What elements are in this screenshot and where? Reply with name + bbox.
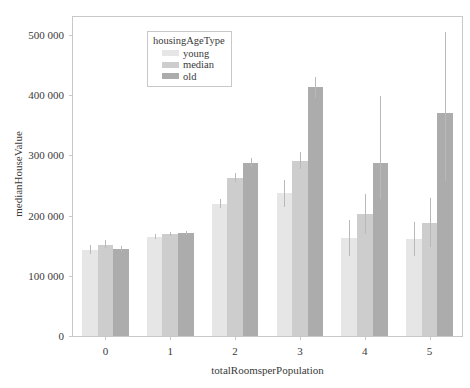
bar [178, 233, 194, 336]
x-tick-mark [365, 336, 366, 340]
error-bar [315, 77, 316, 99]
y-tick-mark [69, 276, 73, 277]
y-tick-mark [69, 35, 73, 36]
plot-inner: 0100 000200 000300 000400 000500 000 012… [73, 17, 462, 336]
error-bar [251, 158, 252, 168]
x-axis-label: totalRoomsperPopulation [70, 364, 465, 376]
y-tick-mark [69, 155, 73, 156]
legend-swatch-icon [162, 50, 179, 56]
x-tick-mark [300, 336, 301, 340]
legend-item[interactable]: median [153, 59, 225, 71]
bar [82, 250, 98, 336]
y-tick-label: 400 000 [3, 89, 73, 101]
x-tick-label: 1 [168, 345, 174, 357]
y-tick-label: 100 000 [3, 270, 73, 282]
y-tick-label: 200 000 [3, 210, 73, 222]
error-bar [445, 32, 446, 181]
x-tick-mark [430, 336, 431, 340]
x-tick-label: 0 [103, 345, 109, 357]
bar [147, 237, 163, 336]
y-tick-label: 0 [3, 330, 73, 342]
bar [292, 161, 308, 336]
x-tick-label: 4 [362, 345, 368, 357]
bar [98, 245, 114, 336]
x-tick-mark [235, 336, 236, 340]
error-bar [121, 246, 122, 253]
legend-entries: youngmedianold [153, 48, 225, 83]
bar [227, 178, 243, 336]
bar [113, 249, 129, 336]
error-bar [220, 199, 221, 208]
plot-area: 0100 000200 000300 000400 000500 000 012… [72, 16, 463, 337]
error-bar [300, 152, 301, 169]
legend-item-label: median [183, 59, 214, 71]
legend-item-label: old [183, 71, 196, 83]
bar [162, 234, 178, 336]
x-tick-label: 3 [297, 345, 303, 357]
bar [212, 204, 228, 336]
legend: housingAgeType youngmedianold [147, 31, 232, 87]
error-bar [284, 180, 285, 206]
error-bar [430, 198, 431, 247]
error-bar [170, 232, 171, 236]
legend-title: housingAgeType [153, 35, 225, 47]
legend-swatch-icon [162, 73, 179, 79]
y-axis-label: medianHouseValue [12, 104, 24, 244]
legend-swatch-icon [162, 62, 179, 68]
x-tick-mark [170, 336, 171, 340]
x-tick-mark [105, 336, 106, 340]
error-bar [235, 173, 236, 182]
y-tick-label: 300 000 [3, 149, 73, 161]
bar [243, 163, 259, 336]
error-bar [105, 240, 106, 248]
y-tick-mark [69, 216, 73, 217]
error-bar [380, 96, 381, 198]
error-bar [414, 222, 415, 256]
y-tick-mark [69, 336, 73, 337]
legend-item-label: young [183, 48, 209, 60]
error-bar [349, 220, 350, 256]
error-bar [90, 245, 91, 255]
error-bar [155, 234, 156, 239]
error-bar [365, 194, 366, 234]
bar [277, 193, 293, 336]
y-tick-label: 500 000 [3, 29, 73, 41]
y-tick-mark [69, 95, 73, 96]
x-tick-label: 2 [232, 345, 238, 357]
legend-item[interactable]: old [153, 71, 225, 83]
chart-figure: medianHouseValue totalRoomsperPopulation… [0, 0, 470, 388]
bar [308, 87, 324, 336]
x-tick-label: 5 [427, 345, 433, 357]
legend-item[interactable]: young [153, 48, 225, 60]
error-bar [186, 231, 187, 235]
